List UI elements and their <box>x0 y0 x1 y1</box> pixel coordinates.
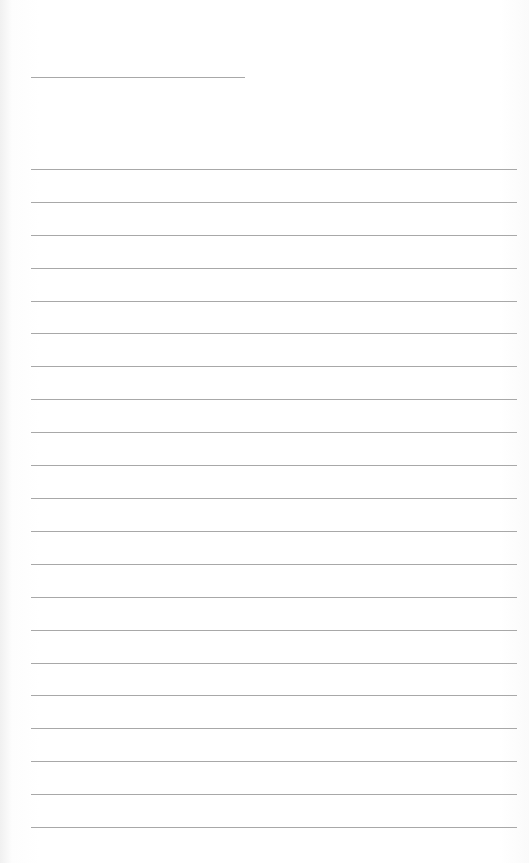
ruled-line <box>31 465 517 466</box>
ruled-line <box>31 827 517 828</box>
ruled-line <box>31 761 517 762</box>
ruled-line <box>31 399 517 400</box>
ruled-line <box>31 301 517 302</box>
ruled-line <box>31 695 517 696</box>
title-line <box>31 77 245 78</box>
ruled-line <box>31 498 517 499</box>
ruled-line <box>31 268 517 269</box>
ruled-line <box>31 235 517 236</box>
ruled-line <box>31 728 517 729</box>
ruled-line <box>31 663 517 664</box>
ruled-line <box>31 630 517 631</box>
ruled-line <box>31 169 517 170</box>
lined-paper-sheet <box>0 0 529 863</box>
ruled-line <box>31 531 517 532</box>
ruled-line <box>31 794 517 795</box>
ruled-line <box>31 564 517 565</box>
ruled-line <box>31 432 517 433</box>
ruled-line <box>31 597 517 598</box>
ruled-line <box>31 333 517 334</box>
ruled-line <box>31 202 517 203</box>
ruled-line <box>31 366 517 367</box>
